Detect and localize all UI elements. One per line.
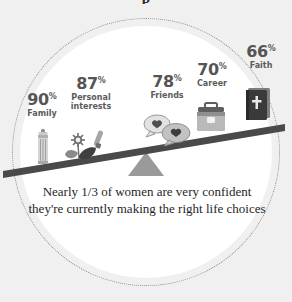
stat-faith: 66% Faith bbox=[236, 44, 286, 70]
caption-text: Nearly 1/3 of women are very confident t… bbox=[28, 183, 266, 217]
stat-personal-value: 87% bbox=[60, 76, 122, 92]
baby-bottle-icon bbox=[38, 129, 48, 164]
speech-bubbles-heart-icon bbox=[144, 115, 190, 146]
stat-personal-interests: 87% Personal interests bbox=[60, 76, 122, 111]
bible-book-icon bbox=[246, 88, 270, 120]
infographic-canvas: p bbox=[0, 0, 292, 302]
stat-career: 70% Career bbox=[186, 62, 238, 88]
stat-faith-value: 66% bbox=[236, 44, 286, 60]
stat-career-value: 70% bbox=[186, 62, 238, 78]
stat-personal-label: Personal interests bbox=[60, 93, 122, 111]
stat-career-label: Career bbox=[186, 79, 238, 88]
stat-friends-label: Friends bbox=[140, 91, 194, 100]
flower-icon bbox=[65, 130, 104, 159]
briefcase-icon bbox=[197, 103, 225, 131]
stat-faith-label: Faith bbox=[236, 61, 286, 70]
